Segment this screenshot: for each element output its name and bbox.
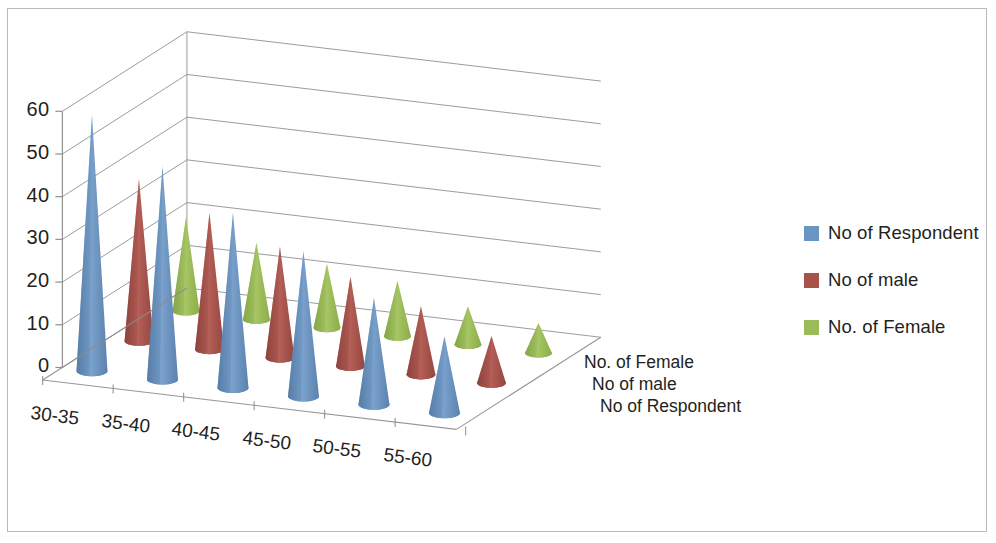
legend-item-no-of-female[interactable]: No. of Female: [804, 316, 994, 338]
cone-no-of-male-55-60: [477, 336, 506, 388]
cone-no-of-male-30-35: [125, 179, 154, 346]
cone-no-of-respondent-40-45: [218, 213, 249, 393]
legend-swatch-icon: [804, 320, 819, 335]
legend-swatch-icon: [804, 273, 819, 288]
chart-front-axis: [43, 111, 601, 435]
z-label-no-of-male: No of male: [592, 374, 677, 395]
cone-no-of-female-40-45: [314, 264, 341, 333]
chart-cones: [77, 115, 552, 418]
chart-legend: No of RespondentNo of maleNo. of Female: [804, 222, 994, 363]
y-tick-10: 10: [3, 312, 49, 335]
legend-label: No of Respondent: [828, 222, 979, 244]
cone-no-of-female-45-50: [384, 281, 411, 341]
cone-no-of-respondent-55-60: [429, 336, 460, 418]
cone-no-of-female-50-55: [455, 306, 482, 349]
y-tick-60: 60: [3, 98, 49, 121]
cone-no-of-male-40-45: [266, 247, 295, 363]
y-tick-0: 0: [3, 354, 49, 377]
cone-no-of-respondent-50-55: [359, 298, 390, 410]
cone-no-of-male-45-50: [336, 277, 365, 372]
legend-item-no-of-male[interactable]: No of male: [804, 269, 994, 291]
y-tick-20: 20: [3, 269, 49, 292]
z-label-no-of-respondent: No of Respondent: [600, 396, 741, 417]
y-tick-40: 40: [3, 184, 49, 207]
z-label-no-of-female: No. of Female: [584, 352, 694, 373]
legend-label: No. of Female: [828, 316, 946, 338]
legend-label: No of male: [828, 269, 918, 291]
cone-no-of-respondent-30-35: [77, 115, 108, 376]
legend-swatch-icon: [804, 226, 819, 241]
legend-item-no-of-respondent[interactable]: No of Respondent: [804, 222, 994, 244]
cone-no-of-respondent-35-40: [147, 166, 178, 385]
cone-no-of-male-35-40: [195, 213, 224, 354]
y-tick-30: 30: [3, 226, 49, 249]
y-tick-50: 50: [3, 141, 49, 164]
cone-no-of-female-30-35: [173, 217, 200, 315]
